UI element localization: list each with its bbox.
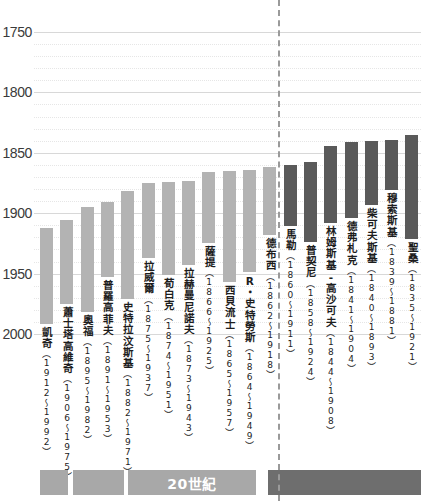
composer-years: （1835～1921） [407,264,417,371]
composer-lifespan-bar[interactable] [81,207,94,312]
composer-years: （1882～1971） [123,369,133,476]
composer-years: （1891～1953） [103,336,113,443]
composer-name: 蕭士塔高維奇 [61,307,73,374]
composer-label: 穆索斯基（1839～1881） [386,193,397,345]
composer-name: 普契尼 [305,245,317,279]
era-segment[interactable] [268,470,421,495]
composer-name: 德弗札克 [345,221,357,266]
composer-label: 西貝流士（1865～1957） [224,285,235,437]
composer-label: R・史特勞斯（1864～1949） [244,275,255,450]
y-axis-tick-label: 1950 [0,266,32,282]
composer-years: （1844～1908） [326,328,336,435]
composer-years: （1862～1918） [265,272,275,379]
composer-years: （1912～1992） [42,350,52,457]
composer-label: 拉威爾（1875～1937） [143,261,154,402]
gridline-minor [34,165,421,166]
composer-years: （1858～1924） [306,279,316,386]
era-segment[interactable] [73,470,124,495]
composer-lifespan-bar[interactable] [405,135,418,239]
composer-name: 林姆斯基-高沙可夫 [325,226,337,328]
composer-name: 馬勒 [284,229,296,251]
composer-name: 拉威爾 [142,261,154,295]
composer-name: 凱奇 [41,327,53,349]
composer-lifespan-bar[interactable] [243,170,256,273]
composer-years: （1864～1949） [245,344,255,451]
composer-label: 拉赫曼尼諾夫（1873～1943） [183,268,194,442]
composer-years: （1874～1951） [164,311,174,418]
composer-lifespan-bar[interactable] [324,146,337,223]
composer-lifespan-bar[interactable] [101,202,114,277]
composer-years: （1866～1925） [204,269,214,376]
composer-lifespan-bar[interactable] [365,141,378,205]
era-divider-line-bottom [278,464,280,501]
gridline-minor [34,56,421,57]
plot-area: 凱奇（1912～1992）蕭士塔高維奇（1906～1975）奧福（1895～19… [34,0,421,460]
composer-lifespan-bar[interactable] [60,220,73,303]
era-strip: 20世紀 [0,470,421,495]
composer-lifespan-bar[interactable] [385,140,398,191]
gridline-major [34,92,421,93]
era-segment[interactable] [40,470,68,495]
composer-label: 薩提（1866～1925） [203,246,214,375]
composer-label: 林姆斯基-高沙可夫（1844～1908） [325,226,336,435]
y-axis-tick-label: 1750 [0,24,32,40]
composer-label: 普契尼（1858～1924） [305,245,316,386]
composer-lifespan-bar[interactable] [284,165,297,227]
composer-name: 西貝流士 [223,285,235,330]
composer-label: 凱奇（1912～1992） [41,327,52,456]
era-segment[interactable]: 20世紀 [128,470,256,495]
gridline-minor [34,141,421,142]
composer-name: 穆索斯基 [386,193,398,238]
gridline-minor [34,104,421,105]
composer-label: 德弗札克（1841～1904） [346,221,357,373]
gridline-minor [34,68,421,69]
composer-years: （1839～1881） [387,238,397,345]
composer-lifespan-bar[interactable] [162,182,175,275]
composer-name: 奧福 [81,315,93,337]
composer-lifespan-bar[interactable] [345,142,358,218]
composer-lifespan-bar[interactable] [182,181,195,266]
composer-lifespan-bar[interactable] [223,171,236,282]
composer-label: 普羅高菲夫（1891～1953） [102,280,113,443]
y-axis-tick-label: 2000 [0,326,32,342]
composer-label: 馬勒（1860～1911） [285,229,296,358]
composer-lifespan-bar[interactable] [263,167,276,235]
composer-years: （1840～1893） [367,264,377,371]
composer-label: 史特拉汶斯基（1882～1971） [122,302,133,476]
gridline-minor [34,80,421,81]
composer-lifespan-bar[interactable] [202,172,215,243]
composer-lifespan-bar[interactable] [121,191,134,299]
composer-years: （1865～1957） [224,330,234,437]
composer-name: R・史特勞斯 [244,275,256,343]
composer-years: （1873～1943） [184,335,194,442]
composer-label: 蕭士塔高維奇（1906～1975） [61,307,72,481]
y-axis-tick-label: 1800 [0,84,32,100]
composer-label: 奧福（1895～1982） [82,315,93,444]
composer-name: 德布西 [264,238,276,272]
gridline-minor [34,44,421,45]
gridline-major [34,32,421,33]
composer-name: 拉赫曼尼諾夫 [183,268,195,335]
composer-years: （1875～1937） [143,295,153,402]
composer-name: 普羅高菲夫 [102,280,114,336]
composer-lifespan-bar[interactable] [304,162,317,242]
era-divider-line [278,0,280,460]
composer-name: 柴可夫斯基 [366,208,378,264]
composer-label: 柴可夫斯基（1840～1893） [366,208,377,371]
era-label: 20世紀 [167,473,216,493]
composer-lifespan-bar[interactable] [40,228,53,325]
composer-years: （1895～1982） [82,338,92,445]
y-axis-tick-label: 1850 [0,145,32,161]
composer-name: 荀白克 [163,278,175,312]
gridline-minor [34,129,421,130]
composer-years: （1860～1911） [285,252,295,359]
composer-name: 史特拉汶斯基 [122,302,134,369]
composer-name: 薩提 [203,246,215,268]
composer-label: 聖桑（1835～1921） [406,242,417,371]
y-axis-tick-label: 1900 [0,205,32,221]
composer-label: 德布西（1862～1918） [264,238,275,379]
gridline-minor [34,117,421,118]
composer-years: （1906～1975） [62,374,72,481]
composer-lifespan-bar[interactable] [142,183,155,258]
